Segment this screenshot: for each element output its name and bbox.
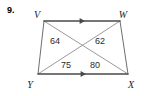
- vertex-label-x: X: [127, 79, 135, 90]
- angle-label-at-x: 80: [90, 60, 100, 70]
- vertex-label-v: V: [34, 9, 42, 20]
- trapezoid-diagram: V W X Y 64 62 75 80: [0, 0, 150, 96]
- angle-label-at-v: 64: [50, 36, 60, 46]
- geometry-figure-container: 9. V W X Y 64 62 75 80: [0, 0, 150, 96]
- diagonal-wy: [38, 21, 120, 74]
- diagonal-vx: [44, 21, 128, 74]
- parallel-arrow-top-icon: [80, 18, 85, 24]
- vertex-label-y: Y: [27, 79, 34, 90]
- parallel-arrow-bottom-icon: [81, 71, 86, 77]
- angle-label-at-y: 75: [61, 60, 71, 70]
- vertex-label-w: W: [119, 9, 129, 20]
- angle-label-at-w: 62: [95, 36, 105, 46]
- edge-yv: [38, 21, 44, 74]
- edge-wx: [120, 21, 128, 74]
